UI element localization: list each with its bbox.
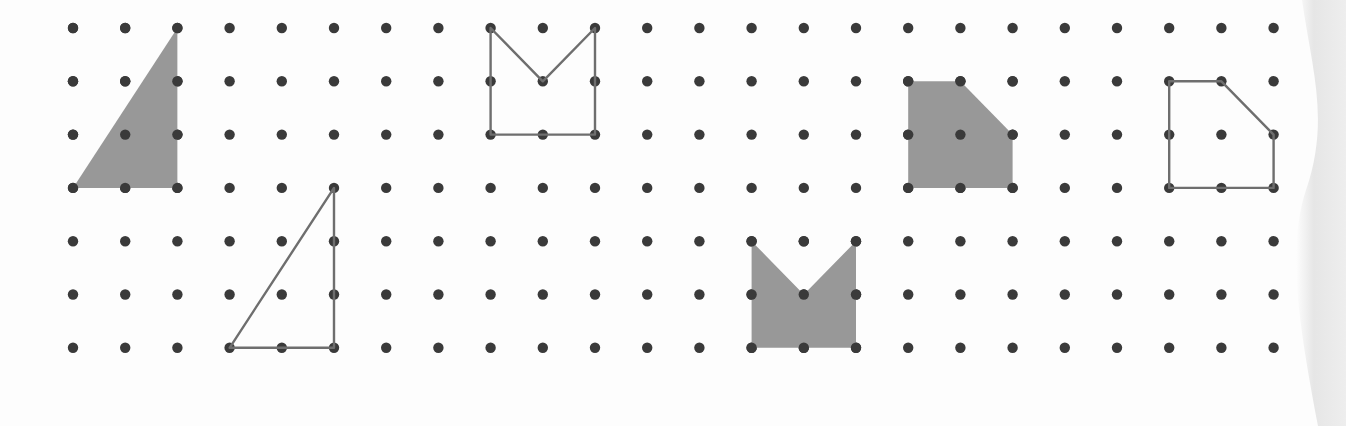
grid-dot[interactable] bbox=[172, 343, 182, 353]
grid-dot[interactable] bbox=[590, 289, 600, 299]
grid-dot[interactable] bbox=[68, 343, 78, 353]
grid-dot[interactable] bbox=[1164, 289, 1174, 299]
grid-dot[interactable] bbox=[851, 76, 861, 86]
grid-dot[interactable] bbox=[642, 76, 652, 86]
grid-dot[interactable] bbox=[1007, 343, 1017, 353]
grid-dot[interactable] bbox=[1268, 289, 1278, 299]
grid-dot[interactable] bbox=[433, 183, 443, 193]
grid-dot[interactable] bbox=[799, 129, 809, 139]
grid-dot[interactable] bbox=[381, 76, 391, 86]
grid-dot[interactable] bbox=[694, 236, 704, 246]
grid-dot[interactable] bbox=[694, 23, 704, 33]
grid-dot[interactable] bbox=[903, 23, 913, 33]
grid-dot[interactable] bbox=[1216, 343, 1226, 353]
grid-dot[interactable] bbox=[433, 236, 443, 246]
grid-dot[interactable] bbox=[903, 183, 913, 193]
grid-dot[interactable] bbox=[694, 76, 704, 86]
grid-dot[interactable] bbox=[851, 343, 861, 353]
grid-dot[interactable] bbox=[277, 236, 287, 246]
grid-dot[interactable] bbox=[1060, 23, 1070, 33]
grid-dot[interactable] bbox=[277, 289, 287, 299]
grid-dot[interactable] bbox=[68, 183, 78, 193]
grid-dot[interactable] bbox=[485, 183, 495, 193]
grid-dot[interactable] bbox=[381, 23, 391, 33]
grid-dot[interactable] bbox=[799, 76, 809, 86]
grid-dot[interactable] bbox=[1216, 236, 1226, 246]
grid-dot[interactable] bbox=[1268, 23, 1278, 33]
grid-dot[interactable] bbox=[851, 183, 861, 193]
grid-dot[interactable] bbox=[799, 289, 809, 299]
grid-dot[interactable] bbox=[746, 236, 756, 246]
grid-dot[interactable] bbox=[799, 23, 809, 33]
grid-dot[interactable] bbox=[433, 76, 443, 86]
grid-dot[interactable] bbox=[955, 289, 965, 299]
grid-dot[interactable] bbox=[381, 183, 391, 193]
grid-dot[interactable] bbox=[955, 129, 965, 139]
grid-dot[interactable] bbox=[329, 76, 339, 86]
grid-dot[interactable] bbox=[903, 76, 913, 86]
grid-dot[interactable] bbox=[224, 23, 234, 33]
grid-dot[interactable] bbox=[538, 343, 548, 353]
grid-dot[interactable] bbox=[903, 343, 913, 353]
grid-dot[interactable] bbox=[642, 23, 652, 33]
grid-dot[interactable] bbox=[172, 183, 182, 193]
grid-dot[interactable] bbox=[433, 289, 443, 299]
grid-dot[interactable] bbox=[120, 236, 130, 246]
grid-dot[interactable] bbox=[1007, 183, 1017, 193]
grid-dot[interactable] bbox=[120, 343, 130, 353]
grid-dot[interactable] bbox=[1007, 76, 1017, 86]
grid-dot[interactable] bbox=[224, 183, 234, 193]
grid-dot[interactable] bbox=[485, 343, 495, 353]
grid-dot[interactable] bbox=[1007, 23, 1017, 33]
grid-dot[interactable] bbox=[746, 183, 756, 193]
grid-dot[interactable] bbox=[485, 289, 495, 299]
grid-dot[interactable] bbox=[799, 236, 809, 246]
grid-dot[interactable] bbox=[485, 236, 495, 246]
grid-dot[interactable] bbox=[1268, 76, 1278, 86]
grid-dot[interactable] bbox=[1268, 236, 1278, 246]
grid-dot[interactable] bbox=[538, 183, 548, 193]
grid-dot[interactable] bbox=[851, 236, 861, 246]
grid-dot[interactable] bbox=[381, 289, 391, 299]
grid-dot[interactable] bbox=[277, 76, 287, 86]
grid-dot[interactable] bbox=[120, 289, 130, 299]
grid-dot[interactable] bbox=[120, 23, 130, 33]
grid-dot[interactable] bbox=[642, 183, 652, 193]
grid-dot[interactable] bbox=[746, 129, 756, 139]
grid-dot[interactable] bbox=[1007, 289, 1017, 299]
grid-dot[interactable] bbox=[277, 23, 287, 33]
grid-dot[interactable] bbox=[642, 343, 652, 353]
grid-dot[interactable] bbox=[538, 289, 548, 299]
grid-dot[interactable] bbox=[381, 236, 391, 246]
grid-dot[interactable] bbox=[329, 23, 339, 33]
grid-dot[interactable] bbox=[68, 236, 78, 246]
grid-dot[interactable] bbox=[120, 183, 130, 193]
grid-dot[interactable] bbox=[1112, 343, 1122, 353]
grid-dot[interactable] bbox=[224, 289, 234, 299]
grid-dot[interactable] bbox=[277, 129, 287, 139]
grid-dot[interactable] bbox=[433, 129, 443, 139]
grid-dot[interactable] bbox=[903, 129, 913, 139]
grid-dot[interactable] bbox=[224, 236, 234, 246]
grid-dot[interactable] bbox=[433, 343, 443, 353]
grid-dot[interactable] bbox=[381, 343, 391, 353]
grid-dot[interactable] bbox=[799, 183, 809, 193]
grid-dot[interactable] bbox=[538, 23, 548, 33]
grid-dot[interactable] bbox=[1164, 343, 1174, 353]
grid-dot[interactable] bbox=[1216, 129, 1226, 139]
grid-dot[interactable] bbox=[68, 289, 78, 299]
grid-dot[interactable] bbox=[694, 343, 704, 353]
grid-dot[interactable] bbox=[1268, 343, 1278, 353]
grid-dot[interactable] bbox=[746, 343, 756, 353]
grid-dot[interactable] bbox=[1216, 289, 1226, 299]
grid-dot[interactable] bbox=[590, 343, 600, 353]
grid-dot[interactable] bbox=[1112, 236, 1122, 246]
grid-dot[interactable] bbox=[955, 236, 965, 246]
grid-dot[interactable] bbox=[903, 289, 913, 299]
grid-dot[interactable] bbox=[1007, 129, 1017, 139]
grid-dot[interactable] bbox=[851, 23, 861, 33]
grid-dot[interactable] bbox=[1060, 289, 1070, 299]
grid-dot[interactable] bbox=[224, 129, 234, 139]
grid-dot[interactable] bbox=[955, 183, 965, 193]
grid-dot[interactable] bbox=[590, 183, 600, 193]
